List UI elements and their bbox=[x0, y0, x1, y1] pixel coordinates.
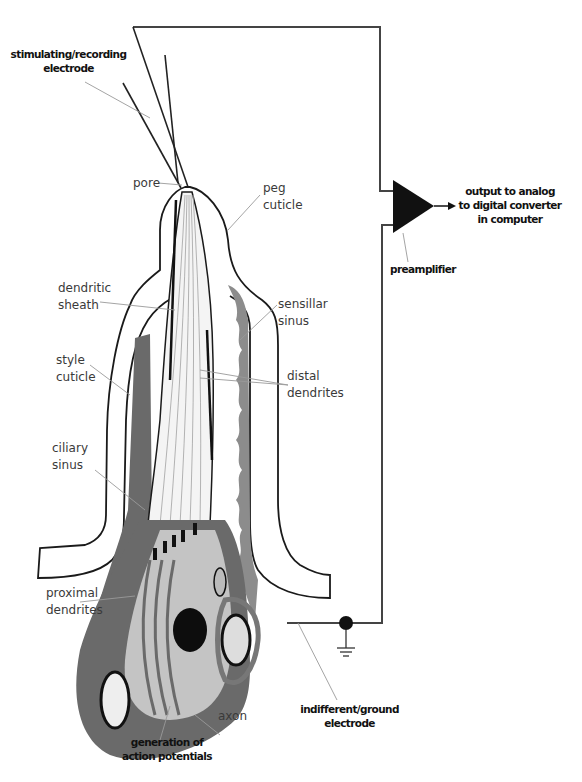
label-line: distal bbox=[287, 368, 344, 385]
label-line: preamplifier bbox=[383, 262, 463, 276]
label-style-cuticle: style cuticle bbox=[56, 352, 96, 386]
label-distal-dendrites: distal dendrites bbox=[287, 368, 344, 402]
label-axon: axon bbox=[218, 708, 247, 725]
nucleus-speckled-right bbox=[222, 615, 250, 665]
label-generation-action-potentials: generation of action potentials bbox=[112, 735, 222, 763]
nucleus-dark bbox=[173, 608, 207, 652]
wire-top bbox=[133, 27, 395, 191]
ground-icon bbox=[337, 630, 355, 656]
label-line: cuticle bbox=[56, 369, 96, 386]
label-preamplifier: preamplifier bbox=[383, 262, 463, 276]
label-ciliary-sinus: ciliary sinus bbox=[52, 440, 88, 474]
nucleus-speckled-left bbox=[101, 672, 129, 728]
label-line: electrode bbox=[292, 716, 407, 730]
label-line: to digital converter bbox=[455, 198, 565, 212]
junction-node-icon bbox=[339, 616, 353, 630]
electrode bbox=[123, 27, 188, 188]
label-line: action potentials bbox=[112, 749, 222, 763]
wire-ground bbox=[287, 225, 395, 623]
label-pore: pore bbox=[133, 175, 160, 192]
label-line: peg bbox=[263, 180, 303, 197]
label-peg-cuticle: peg cuticle bbox=[263, 180, 303, 214]
label-line: generation of bbox=[112, 735, 222, 749]
label-line: sheath bbox=[58, 297, 111, 314]
label-line: proximal bbox=[46, 585, 103, 602]
label-stimulating-electrode: stimulating/recording electrode bbox=[6, 47, 131, 75]
label-proximal-dendrites: proximal dendrites bbox=[46, 585, 103, 619]
preamplifier-icon bbox=[393, 180, 434, 233]
label-dendritic-sheath: dendritic sheath bbox=[58, 280, 111, 314]
label-line: output to analog bbox=[455, 184, 565, 198]
nucleus-small bbox=[214, 568, 226, 596]
label-line: ciliary bbox=[52, 440, 88, 457]
label-indifferent-electrode: indifferent/ground electrode bbox=[292, 702, 407, 730]
label-line: axon bbox=[218, 708, 247, 725]
label-line: stimulating/recording bbox=[6, 47, 131, 61]
label-line: dendrites bbox=[46, 602, 103, 619]
label-line: sinus bbox=[278, 313, 328, 330]
label-line: sinus bbox=[52, 457, 88, 474]
label-line: indifferent/ground bbox=[292, 702, 407, 716]
label-line: dendrites bbox=[287, 385, 344, 402]
label-line: cuticle bbox=[263, 197, 303, 214]
label-sensillar-sinus: sensillar sinus bbox=[278, 296, 328, 330]
label-line: in computer bbox=[455, 212, 565, 226]
label-line: electrode bbox=[6, 61, 131, 75]
label-line: sensillar bbox=[278, 296, 328, 313]
label-line: pore bbox=[133, 175, 160, 192]
label-line: style bbox=[56, 352, 96, 369]
label-line: dendritic bbox=[58, 280, 111, 297]
label-output: output to analog to digital converter in… bbox=[455, 184, 565, 226]
